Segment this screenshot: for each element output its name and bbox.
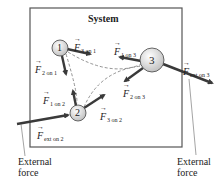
particle-1-label: 1 — [57, 43, 62, 53]
system-title: System — [88, 14, 119, 24]
arrow-f1on2 — [73, 91, 76, 106]
label-f2on3: F2 on 3 — [123, 84, 145, 100]
leader-left — [21, 124, 25, 156]
external-force-left-caption: External force — [18, 156, 52, 178]
label-fexton2: Fext on 2 — [37, 126, 63, 142]
label-f2on1: F2 on 1 — [35, 60, 57, 76]
leader-right — [189, 79, 196, 155]
external-force-right-caption: External force — [177, 156, 211, 178]
arrow-f2on1 — [62, 56, 66, 74]
particle-3-label: 3 — [149, 55, 155, 66]
particle-2-label: 2 — [75, 108, 80, 118]
label-fexton3: Fext on 3 — [183, 62, 209, 78]
arrow-f2on3 — [125, 68, 143, 81]
label-f1on3: F1 on 3 — [114, 42, 136, 58]
label-f1on2: F1 on 2 — [43, 91, 65, 107]
label-f3on1: F3 on 1 — [74, 38, 96, 54]
label-f3on2: F3 on 2 — [100, 107, 122, 123]
